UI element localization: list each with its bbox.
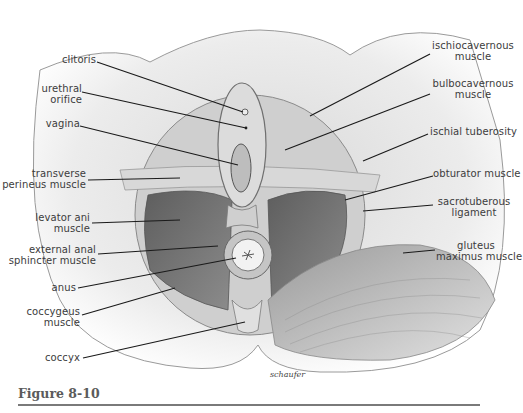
label-coccygeus-muscle: coccygeus muscle (10, 306, 80, 328)
label-levator-ani-muscle: levator ani muscle (20, 212, 90, 234)
label-urethral-orifice: urethral orifice (28, 83, 82, 105)
label-sacrotuberous-ligament: sacrotuberous ligament (434, 196, 514, 218)
label-vagina: vagina (28, 118, 80, 129)
label-gluteus-maximus-muscle: gluteus maximus muscle (436, 240, 516, 262)
vaginal-opening (231, 144, 251, 192)
label-anus: anus (20, 282, 76, 293)
label-obturator-muscle: obturator muscle (433, 168, 523, 179)
label-bulbocavernous-muscle: bulbocavernous muscle (428, 78, 518, 100)
caption-rule (18, 404, 480, 406)
label-ischial-tuberosity: ischial tuberosity (430, 126, 520, 137)
label-external-anal-sphincter-muscle: external anal sphincter muscle (0, 244, 96, 266)
artist-signature: schaufer (270, 370, 305, 379)
figure-caption: Figure 8-10 (18, 386, 100, 401)
label-coccyx: coccyx (20, 352, 80, 363)
label-transverse-perineus-muscle: transverse perineus muscle (0, 168, 86, 190)
label-clitoris: clitoris (38, 54, 96, 65)
label-ischiocavernous-muscle: ischiocavernous muscle (428, 40, 518, 62)
